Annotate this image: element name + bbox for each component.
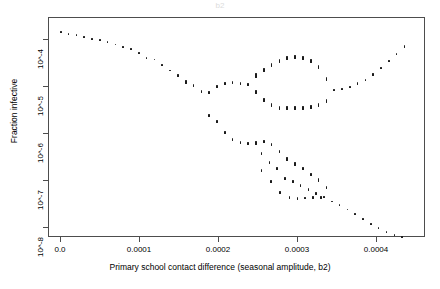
data-point: [294, 106, 296, 110]
data-point: [286, 157, 288, 160]
data-point: [271, 143, 273, 146]
data-point: [362, 218, 364, 220]
x-tick-mark: [60, 237, 61, 242]
data-point: [201, 90, 203, 93]
data-point: [261, 169, 263, 172]
y-tick-label: 10^-7: [36, 180, 46, 220]
x-tick-mark: [218, 237, 219, 242]
data-point: [354, 213, 356, 215]
data-point: [208, 114, 210, 117]
data-point: [310, 105, 312, 109]
data-point: [177, 74, 179, 77]
data-point: [83, 36, 85, 38]
data-point: [255, 73, 257, 77]
data-point: [255, 90, 257, 94]
data-point: [107, 41, 109, 43]
data-point: [122, 46, 124, 48]
data-point: [224, 82, 226, 85]
x-axis-title: Primary school contact difference (seaso…: [0, 262, 440, 272]
data-point: [323, 196, 325, 198]
data-point: [302, 106, 304, 110]
y-tick-label: 10^-5: [36, 86, 46, 126]
data-point: [146, 57, 148, 59]
data-point: [326, 186, 328, 189]
data-point: [380, 67, 382, 70]
data-point: [240, 82, 242, 85]
data-point: [279, 106, 281, 110]
data-point: [401, 236, 403, 238]
x-tick-label: 0.0002: [188, 245, 248, 255]
data-point: [263, 98, 265, 102]
data-point: [326, 99, 328, 103]
data-point: [310, 59, 312, 63]
data-point: [396, 53, 398, 56]
data-point: [357, 82, 359, 85]
data-point: [232, 138, 234, 141]
y-axis-title: Fraction infective: [8, 61, 20, 161]
data-point: [99, 39, 101, 41]
data-point: [279, 150, 281, 153]
data-point: [326, 77, 328, 81]
y-tick-label: 10^-6: [36, 133, 46, 173]
data-point: [300, 184, 302, 187]
data-point: [370, 223, 372, 225]
data-point: [312, 196, 314, 199]
data-point: [115, 44, 117, 46]
x-tick-label: 0.0003: [267, 245, 327, 255]
data-point: [279, 59, 281, 63]
plot-panel: [48, 17, 425, 237]
data-point: [284, 177, 286, 180]
data-point: [304, 197, 306, 200]
data-point: [138, 52, 140, 54]
data-point: [404, 45, 406, 48]
data-point: [315, 192, 317, 195]
data-point: [339, 204, 341, 206]
data-point: [271, 63, 273, 67]
x-tick-label: 0.0001: [109, 245, 169, 255]
data-point: [378, 227, 380, 229]
data-point: [76, 34, 78, 36]
data-point: [68, 33, 70, 35]
plot-title: b2: [0, 0, 440, 12]
y-tick-label: 10^-4: [36, 39, 46, 79]
data-point: [232, 81, 234, 84]
data-point: [279, 191, 281, 194]
data-point: [318, 178, 320, 181]
data-point: [263, 68, 265, 72]
x-tick-mark: [139, 237, 140, 242]
x-tick-mark: [376, 237, 377, 242]
data-point: [349, 86, 351, 89]
data-point: [255, 142, 257, 145]
data-point: [130, 48, 132, 50]
figure-canvas: b2 Fraction infective 10^-8 10^-7 10^-6 …: [0, 0, 440, 289]
data-point: [91, 38, 93, 40]
x-tick-mark: [297, 237, 298, 242]
data-point: [308, 188, 310, 191]
data-point: [247, 142, 249, 145]
data-point: [294, 162, 296, 165]
data-point: [270, 180, 272, 183]
data-point: [286, 56, 288, 60]
data-point: [161, 64, 163, 66]
data-point: [216, 85, 218, 88]
data-point: [318, 65, 320, 69]
data-point: [169, 70, 171, 72]
data-point: [297, 197, 299, 200]
data-point: [271, 103, 273, 107]
data-point: [292, 180, 294, 183]
data-point: [154, 59, 156, 61]
data-point: [333, 89, 335, 92]
data-point: [216, 120, 218, 123]
data-point: [240, 141, 242, 144]
data-point: [386, 231, 388, 233]
data-point: [276, 167, 278, 170]
data-point: [394, 234, 396, 236]
data-point: [193, 84, 195, 87]
data-point: [318, 103, 320, 107]
data-point: [294, 55, 296, 59]
data-point: [286, 106, 288, 110]
data-point: [261, 152, 263, 155]
data-point: [60, 31, 62, 33]
data-point: [263, 140, 265, 143]
data-point: [185, 80, 187, 83]
